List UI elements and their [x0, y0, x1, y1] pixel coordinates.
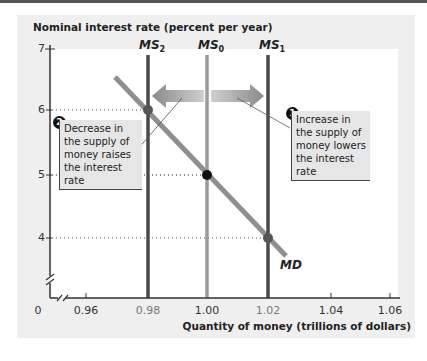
x-tick-0: 0	[18, 304, 58, 317]
x-tick-1.04: 1.04	[311, 304, 351, 317]
x-tick-1.06: 1.06	[370, 304, 410, 317]
ms2-label: MS2	[139, 38, 165, 54]
point-0.98-6	[143, 105, 153, 115]
point-1.02-4	[263, 233, 273, 243]
y-axis-title: Nominal interest rate (percent per year)	[33, 21, 272, 33]
x-tick-1.00: 1.00	[187, 304, 227, 317]
ms0-label: MS0	[198, 38, 224, 54]
y-tick-5: 5	[33, 168, 45, 181]
x-axis-title: Quantity of money (trillions of dollars)	[183, 320, 411, 332]
point-1.00-5	[202, 170, 212, 180]
md-label: MD	[280, 258, 302, 272]
x-tick-0.96: 0.96	[66, 304, 106, 317]
x-tick-0.98: 0.98	[128, 304, 168, 317]
ms1-label: MS1	[259, 38, 285, 54]
note-increase: Increase in the supply of money lowers t…	[291, 111, 370, 181]
y-tick-4: 4	[33, 231, 45, 244]
x-tick-1.02: 1.02	[248, 304, 288, 317]
note-decrease: Decrease in the supply of money raises t…	[59, 120, 142, 190]
y-tick-6: 6	[33, 103, 45, 116]
y-tick-7: 7	[33, 42, 45, 55]
